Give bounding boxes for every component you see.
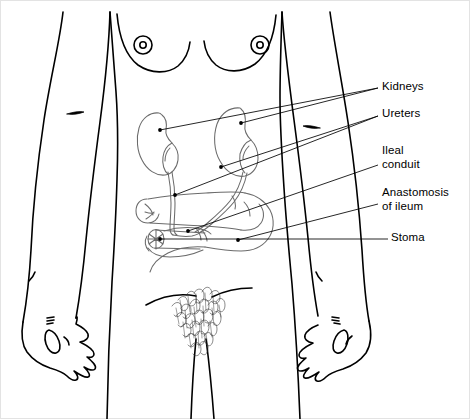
leader-dot-left-ureter: [173, 193, 177, 197]
leader-dot-anastomosis: [236, 238, 240, 242]
left-rib-crease: [67, 112, 84, 115]
right-arm-inner-contour: [282, 12, 318, 316]
leader-dot-right-ureter: [219, 165, 223, 169]
left-hand-outline: [22, 317, 95, 380]
bowel-haustra-b: [244, 202, 250, 216]
left-nipple: [140, 42, 146, 48]
right-groin-crease: [212, 288, 252, 297]
inner-thigh-left: [191, 339, 196, 419]
right-nipple: [257, 42, 263, 48]
leader-line-kidneys-right: [241, 88, 378, 123]
leader-dot-left-kidney: [158, 128, 162, 132]
left-areola: [134, 36, 152, 54]
leader-line-ureters-left: [175, 116, 378, 195]
right-rib-crease: [303, 126, 320, 129]
left-ureter-edge: [172, 172, 177, 235]
bowel-right-inner: [241, 204, 263, 230]
label-ileal-conduit: Ileal conduit: [382, 144, 420, 171]
leader-dot-ileal-conduit: [186, 229, 190, 233]
leader-dot-right-kidney: [239, 121, 243, 125]
organs-group: [136, 108, 273, 272]
pubic-hair-texture: [172, 287, 225, 356]
label-stoma: Stoma: [391, 231, 425, 245]
left-hand-knuckle-detail-a: [47, 317, 54, 324]
right-thumb-detail: [333, 330, 348, 353]
bowel-right-curve: [205, 193, 273, 251]
torso-right-contour: [280, 12, 300, 419]
left-arm-inner-contour: [76, 12, 110, 318]
label-stoma-line1: Stoma: [391, 231, 425, 245]
right-elbow-crease: [316, 272, 322, 281]
label-ureters: Ureters: [382, 107, 420, 121]
bowel-upper-contour: [148, 192, 245, 199]
bowel-lower-contour: [150, 223, 241, 230]
right-areola: [251, 36, 269, 54]
left-kidney-hilum: [163, 143, 172, 174]
left-kidney-pelvis: [165, 148, 170, 161]
right-ureter: [195, 172, 243, 232]
body-outline: [22, 12, 371, 419]
bowel-loop-detail-left: [145, 204, 154, 219]
label-kidneys-line1: Kidneys: [382, 80, 424, 94]
right-kidney-pelvis: [243, 146, 249, 159]
bowel-lower-loop: [150, 247, 205, 272]
left-kidney-outline: [137, 113, 178, 175]
label-kidneys: Kidneys: [382, 80, 424, 94]
stoma-cylinder-bottom: [155, 248, 200, 249]
inner-thigh-right: [206, 339, 214, 419]
left-hand-knuckle-detail-b: [64, 337, 69, 345]
label-ureters-line1: Ureters: [382, 107, 420, 121]
label-anastomosis-of-ileum: Anastomosis of ileum: [382, 186, 449, 213]
torso-left-contour: [107, 12, 118, 419]
label-ileal-conduit-line2: conduit: [382, 158, 420, 172]
left-ureter: [168, 172, 173, 235]
label-ileal-conduit-line1: Ileal: [382, 144, 420, 158]
left-arm-outer-contour: [23, 12, 63, 322]
left-thumb-detail: [45, 330, 60, 353]
right-arm-outer-contour: [330, 12, 369, 321]
leader-dot-stoma: [158, 237, 162, 241]
right-breast-contour: [204, 15, 276, 71]
label-anastomosis-line1: Anastomosis: [382, 186, 449, 200]
label-anastomosis-line2: of ileum: [382, 200, 449, 214]
right-hand-knuckle-detail-b: [346, 336, 352, 344]
left-breast-contour: [117, 14, 190, 72]
bowel-loop-left-end: [136, 199, 159, 223]
right-hand-knuckle-detail-a: [332, 317, 340, 324]
